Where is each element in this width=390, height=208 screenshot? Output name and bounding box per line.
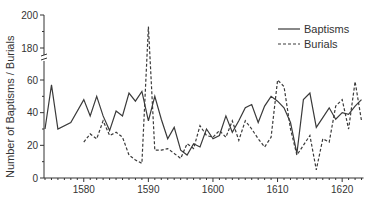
chart-legend: Baptisms Burials [278,23,350,50]
x-tick-label: 1610 [266,184,289,195]
x-tick-label: 1600 [202,184,225,195]
y-axis-title: Number of Baptisms / Burials [4,35,16,178]
legend-label-baptisms: Baptisms [304,23,350,35]
y-tick-label: 20 [27,140,39,151]
axis-break-icon [41,54,47,60]
series-line-baptisms [45,85,362,155]
y-tick-label: 200 [21,10,38,21]
x-tick-label: 1580 [73,184,96,195]
y-tick-label: 0 [32,173,38,184]
legend-label-burials: Burials [304,38,338,50]
x-tick-label: 1590 [137,184,160,195]
x-tick-label: 1620 [331,184,354,195]
line-chart: 200180604020015801590160016101620 Number… [0,0,390,208]
y-tick-label: 40 [27,107,39,118]
y-tick-label: 180 [21,43,38,54]
y-tick-label: 60 [27,75,39,86]
